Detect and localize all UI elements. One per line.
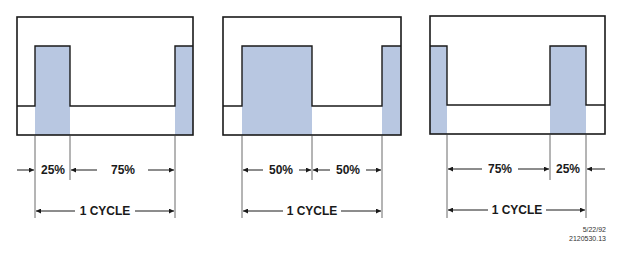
pulse-high-1 [35,46,70,135]
high-label: 25% [556,162,580,176]
panel-25-percent: 25% 75% 1 CYCLE [17,17,193,218]
figure-date: 5/22/92 [569,225,606,234]
cycle-label: 1 CYCLE [287,204,338,218]
panel-50-percent: 50% 50% 1 CYCLE [223,17,401,218]
high-label: 25% [41,163,65,177]
low-label: 75% [488,162,512,176]
pulse-high-2 [382,46,401,135]
duty-cycle-diagram: 25% 75% 1 CYCLE 50% 50% 1 CYCLE [0,0,618,254]
pulse-high-1 [430,46,447,134]
cycle-label: 1 CYCLE [80,204,131,218]
panel-25-percent-shifted: 75% 25% 1 CYCLE [430,16,605,218]
pulse-high-2 [550,46,586,134]
figure-code: 2120530.13 [569,234,606,243]
high-label: 50% [269,163,293,177]
pulse-high-1 [242,46,312,135]
pulse-high-2 [175,46,193,135]
figure-footer: 5/22/92 2120530.13 [569,225,606,243]
cycle-label: 1 CYCLE [492,203,543,217]
low-label: 50% [336,163,360,177]
low-label: 75% [111,163,135,177]
